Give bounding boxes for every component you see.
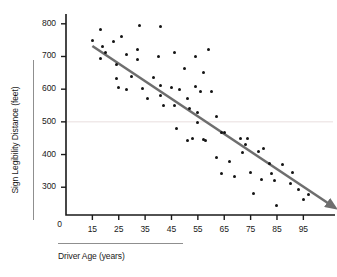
data-point <box>91 39 94 42</box>
x-tick-label-75: 75 <box>241 224 261 234</box>
data-point <box>175 127 178 130</box>
x-tick-label-35: 35 <box>135 224 155 234</box>
y-tick-label-500: 500 <box>30 116 56 126</box>
x-tick-label-45: 45 <box>161 224 181 234</box>
data-point <box>281 163 284 166</box>
data-point <box>136 58 139 61</box>
data-point <box>115 77 118 80</box>
data-point <box>252 192 255 195</box>
data-point <box>136 48 139 51</box>
data-point <box>273 179 276 182</box>
data-point <box>99 57 102 60</box>
trend-line <box>92 46 329 204</box>
plot-area: 300400500600700800 152535455565758595 0 <box>0 0 337 277</box>
data-point <box>141 87 144 90</box>
data-point <box>194 55 197 58</box>
data-point <box>152 76 155 79</box>
data-point <box>178 88 181 91</box>
data-point <box>210 90 213 93</box>
data-point <box>186 139 189 142</box>
data-point <box>207 48 210 51</box>
axis-spines <box>66 14 335 215</box>
origin-label: 0 <box>36 219 62 229</box>
data-point <box>215 156 218 159</box>
y-tick-label-800: 800 <box>30 18 56 28</box>
x-tick-label-15: 15 <box>82 224 102 234</box>
data-point <box>268 162 271 165</box>
data-point <box>173 104 176 107</box>
x-tick-label-65: 65 <box>214 224 234 234</box>
data-point <box>202 138 205 141</box>
y-tick-label-600: 600 <box>30 83 56 93</box>
data-point <box>220 172 223 175</box>
data-point <box>115 63 118 66</box>
y-tick-label-700: 700 <box>30 50 56 60</box>
data-point <box>120 35 123 38</box>
x-tick-label-25: 25 <box>109 224 129 234</box>
x-tick-label-85: 85 <box>267 224 287 234</box>
y-tick-label-400: 400 <box>30 149 56 159</box>
data-point <box>260 178 263 181</box>
data-point <box>289 182 292 185</box>
data-point <box>162 104 165 107</box>
y-tick-label-300: 300 <box>30 181 56 191</box>
data-point <box>99 28 102 31</box>
data-point <box>173 51 176 54</box>
data-point <box>262 147 265 150</box>
chart-figure: Sign Legibility Distance (feet) Driver A… <box>0 0 337 277</box>
x-tick-label-55: 55 <box>188 224 208 234</box>
data-point <box>302 198 305 201</box>
x-tick-label-95: 95 <box>293 224 313 234</box>
data-point <box>157 55 160 58</box>
data-point <box>125 88 128 91</box>
plot-svg <box>0 0 337 277</box>
data-point <box>228 160 231 163</box>
